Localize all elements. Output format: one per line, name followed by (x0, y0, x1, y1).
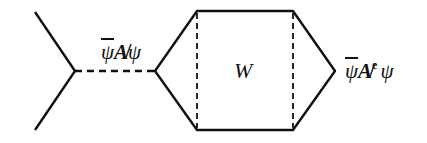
psi-symbol: ψ (380, 59, 393, 83)
slashed-a-symbol: A̸ (114, 40, 128, 64)
superscript-e: e (372, 58, 377, 72)
slashed-a-symbol: A̸ (358, 59, 372, 83)
w-symbol: W (234, 58, 252, 83)
left-lower-leg (35, 71, 75, 130)
left-upper-leg (35, 12, 75, 71)
psi-symbol: ψ (128, 40, 141, 64)
psi-bar-symbol: ψ (101, 40, 114, 64)
left-vertex-label: ψA̸ψ (101, 40, 141, 65)
right-vertex-label: ψA̸eψ (345, 58, 393, 84)
center-label: W (234, 58, 252, 84)
psi-bar-symbol: ψ (345, 59, 358, 83)
